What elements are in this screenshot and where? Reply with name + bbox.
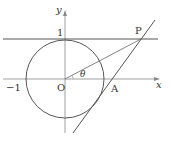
y-axis-arrow-icon [63,10,67,16]
label-one: 1 [57,27,63,38]
unit-circle-diagram: y x 1 −1 O θ P A [0,0,173,141]
point-a-label: A [110,83,119,94]
label-neg-one: −1 [6,82,21,93]
theta-arc [72,75,73,79]
point-p-label: P [135,25,142,36]
y-axis-label: y [55,4,62,15]
x-axis-label: x [156,79,162,90]
segment-op [65,39,141,79]
theta-label: θ [80,69,86,79]
origin-label: O [57,82,65,93]
